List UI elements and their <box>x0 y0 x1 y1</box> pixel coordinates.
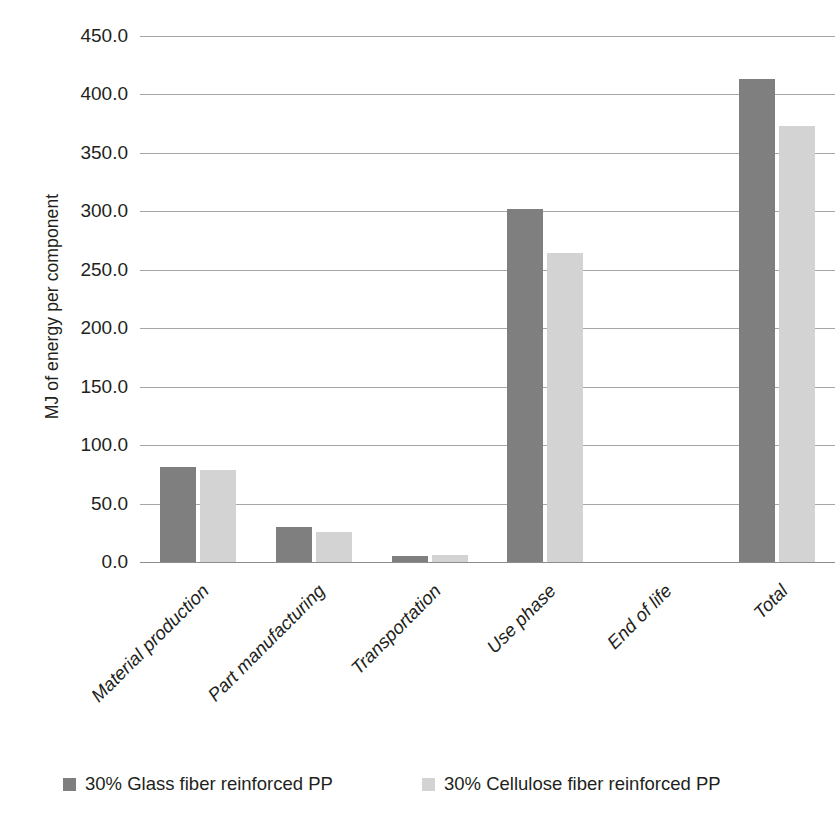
y-tick-label: 300.0 <box>0 200 128 222</box>
bar-chart-figure: MJ of energy per component 0.050.0100.01… <box>0 0 840 827</box>
bar <box>200 470 236 562</box>
y-axis-title: MJ of energy per component <box>42 137 63 477</box>
bar <box>316 532 352 562</box>
legend-item[interactable]: 30% Glass fiber reinforced PP <box>63 775 333 794</box>
gridline <box>140 328 835 329</box>
y-tick-label: 150.0 <box>0 376 128 398</box>
gridline <box>140 387 835 388</box>
bar-group <box>392 36 468 562</box>
y-tick-label: 250.0 <box>0 259 128 281</box>
y-tick-label: 200.0 <box>0 317 128 339</box>
gridline <box>140 504 835 505</box>
gridline <box>140 445 835 446</box>
legend-label: 30% Cellulose fiber reinforced PP <box>444 775 721 794</box>
bar-group <box>623 36 699 562</box>
bar <box>432 555 468 562</box>
legend-item[interactable]: 30% Cellulose fiber reinforced PP <box>422 775 721 794</box>
bar <box>547 253 583 562</box>
legend-swatch-icon <box>422 778 435 791</box>
x-axis-tick-labels: Material productionPart manufacturingTra… <box>0 562 840 742</box>
bar-group <box>160 36 236 562</box>
bar <box>160 467 196 562</box>
y-tick-label: 400.0 <box>0 83 128 105</box>
gridline <box>140 36 835 37</box>
legend-swatch-icon <box>63 778 76 791</box>
plot-area <box>140 36 835 562</box>
bar <box>276 527 312 562</box>
y-tick-label: 450.0 <box>0 25 128 47</box>
gridline <box>140 270 835 271</box>
gridline <box>140 94 835 95</box>
chart-legend: 30% Glass fiber reinforced PP30% Cellulo… <box>0 775 840 815</box>
gridline <box>140 211 835 212</box>
bar <box>739 79 775 562</box>
bar-group <box>739 36 815 562</box>
bar <box>507 209 543 562</box>
bar <box>779 126 815 562</box>
bar-group <box>276 36 352 562</box>
bar-group <box>507 36 583 562</box>
y-tick-label: 350.0 <box>0 142 128 164</box>
y-tick-label: 50.0 <box>0 493 128 515</box>
legend-label: 30% Glass fiber reinforced PP <box>85 775 333 794</box>
y-tick-label: 100.0 <box>0 434 128 456</box>
gridline <box>140 153 835 154</box>
